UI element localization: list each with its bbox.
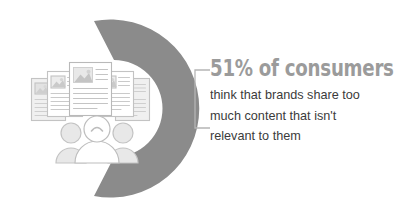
statistic-body-line-2: much content that isn't	[210, 106, 389, 127]
person-center-frowning	[75, 116, 119, 163]
content-documents-group	[32, 63, 150, 121]
statistic-body-line-3: relevant to them	[210, 126, 389, 147]
statistic-headline: 51% of consumers	[210, 56, 374, 81]
audience-people-group	[56, 116, 138, 163]
document-card-center	[70, 63, 112, 116]
infographic-root: 51% of consumers think that brands share…	[0, 0, 400, 217]
statistic-callout: 51% of consumers think that brands share…	[210, 56, 396, 147]
illustration-area	[0, 0, 200, 217]
statistic-body-line-1: think that brands share too	[210, 85, 389, 106]
